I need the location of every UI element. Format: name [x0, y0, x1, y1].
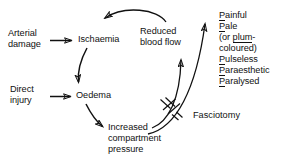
sign-item: Pulseless: [219, 54, 269, 65]
edge-ischaemia-to-oedema: [78, 48, 87, 82]
sign-item: (or plum-: [219, 32, 269, 43]
label-fasciotomy: Fasciotomy: [193, 110, 240, 121]
sign-item: Painful: [219, 10, 269, 21]
sign-item: Paraesthetic: [219, 65, 269, 76]
sign-item: coloured): [219, 43, 269, 54]
compartment-syndrome-diagram: Arterial damage Ischaemia Direct injury …: [0, 0, 287, 163]
edge-reduced-blood-flow-to-ischaemia: [105, 10, 166, 22]
sign-item: Paralysed: [219, 76, 269, 87]
node-direct-injury: Direct injury: [10, 84, 54, 106]
node-arterial-damage: Arterial damage: [8, 28, 54, 50]
sign-underlined-initial: P: [219, 10, 225, 21]
sign-item: Pale: [219, 21, 269, 32]
five-ps-sign-list: PainfulPale(or plum-coloured)PulselessPa…: [219, 10, 269, 87]
node-reduced-blood-flow: Reduced blood flow: [140, 26, 181, 48]
node-ischaemia: Ischaemia: [78, 34, 119, 45]
sign-underlined-initial: P: [219, 65, 225, 76]
sign-underlined-initial: plum: [233, 32, 253, 43]
sign-underlined-initial: P: [219, 54, 225, 65]
sign-underlined-initial: P: [219, 76, 225, 87]
sign-underlined-initial: P: [219, 21, 225, 32]
edge-oedema-to-increased-pressure: [86, 104, 103, 127]
node-oedema: Oedema: [76, 90, 111, 101]
node-increased-compartment-pressure: Increased compartment pressure: [108, 122, 161, 154]
